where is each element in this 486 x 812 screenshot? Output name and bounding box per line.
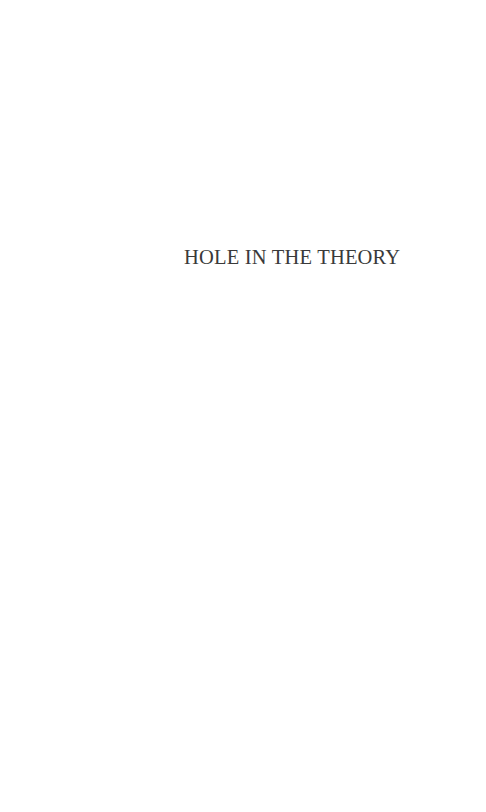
book-page: HOLE IN THE THEORY bbox=[0, 0, 486, 812]
half-title: HOLE IN THE THEORY bbox=[184, 247, 400, 268]
